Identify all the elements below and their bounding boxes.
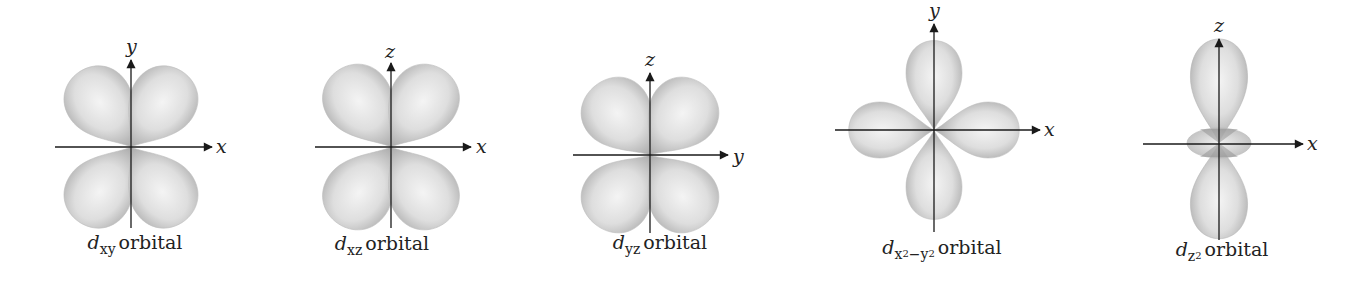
caption-subscript: x2−y2 [895,246,935,262]
panel-dyz: y z [568,48,744,246]
caption-dx2-y2: dx2−y2orbital [882,236,1001,258]
caption-text: orbital [1205,238,1269,260]
axis-label-vertical: z [384,40,396,62]
axis-label-vertical: y [928,0,940,21]
axis-label-horizontal: x [216,135,227,157]
axis-label-horizontal: y [732,145,744,167]
caption-dxz: dxzorbital [335,232,429,254]
caption-text: orbital [365,232,429,254]
panel-dz2: x z [1143,14,1318,240]
caption-d: d [335,232,347,254]
caption-subscript: z2 [1188,248,1202,264]
caption-subscript: xz [347,242,362,258]
caption-dz2: dz2orbital [1176,238,1269,260]
caption-dxy: dxyorbital [88,231,183,253]
caption-d: d [1176,238,1188,260]
caption-text: orbital [938,236,1002,258]
axis-label-horizontal: x [1307,132,1318,154]
caption-text: orbital [643,231,707,253]
panel-dxy: x y [51,35,227,241]
axis-label-horizontal: x [476,135,487,157]
panel-dx2-y2: x y [835,0,1055,232]
panel-dxz: x z [310,40,487,243]
caption-d: d [613,231,625,253]
axis-label-horizontal: x [1044,118,1055,140]
caption-subscript: xy [100,241,116,257]
caption-d: d [882,236,894,258]
axis-label-vertical: z [644,48,656,70]
caption-subscript: yz [625,241,640,257]
axis-label-vertical: y [125,35,137,57]
caption-dyz: dyzorbital [613,231,707,253]
caption-d: d [88,231,100,253]
axis-label-vertical: z [1213,14,1225,36]
caption-text: orbital [119,231,183,253]
